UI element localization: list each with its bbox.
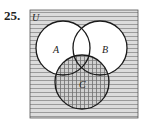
universe-label: U (32, 12, 40, 23)
venn-diagram: U A B C (0, 0, 144, 119)
set-c-label: C (79, 79, 86, 90)
set-b-label: B (102, 44, 108, 55)
set-a-label: A (52, 44, 60, 55)
